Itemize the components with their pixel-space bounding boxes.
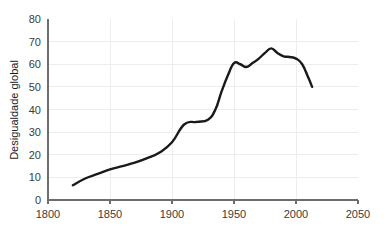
x-tick-label: 1850 bbox=[98, 208, 122, 220]
x-tick-label: 1950 bbox=[222, 208, 246, 220]
y-tick-label: 0 bbox=[35, 194, 41, 206]
x-tick-label: 2050 bbox=[346, 208, 370, 220]
y-tick-label: 70 bbox=[29, 36, 41, 48]
x-tick-label: 1900 bbox=[160, 208, 184, 220]
x-tick-label: 1800 bbox=[36, 208, 60, 220]
inequality-line-chart: 01020304050607080 1800185019001950200020… bbox=[0, 0, 390, 234]
y-tick-label: 60 bbox=[29, 58, 41, 70]
x-tick-label: 2000 bbox=[284, 208, 308, 220]
y-tick-label: 50 bbox=[29, 81, 41, 93]
y-tick-label: 40 bbox=[29, 104, 41, 116]
y-tick-label: 80 bbox=[29, 13, 41, 25]
y-axis-title: Desigualdade global bbox=[8, 60, 20, 160]
y-tick-label: 10 bbox=[29, 171, 41, 183]
y-tick-label: 20 bbox=[29, 149, 41, 161]
y-tick-label: 30 bbox=[29, 126, 41, 138]
chart-container: 01020304050607080 1800185019001950200020… bbox=[0, 0, 390, 234]
y-axis-tick-labels: 01020304050607080 bbox=[29, 13, 41, 206]
